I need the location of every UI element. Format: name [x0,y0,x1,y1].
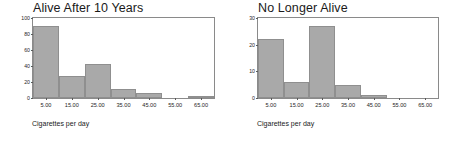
y-axis-tick-label: 10 [249,68,255,74]
y-axis-tick-mark [31,34,33,35]
plot-area: 020406080100 5.0015.0025.0035.0045.0055.… [32,17,215,99]
x-axis-label: Cigarettes per day [32,120,89,127]
histogram-bar [335,85,361,98]
y-axis-tick-label: 20 [249,42,255,48]
y-axis-tick-label: 20 [24,79,30,85]
x-axis-tick-label: 55.00 [392,102,406,108]
x-axis-tick-label: 5.00 [40,102,51,108]
histogram-bar [309,26,335,98]
y-axis-tick-label: 0 [252,95,255,101]
x-axis-tick-mark [322,98,323,100]
x-axis-tick-label: 25.00 [315,102,329,108]
x-axis-tick-mark [149,98,150,100]
chart-title: No Longer Alive [258,1,348,15]
x-axis-tick-label: 55.00 [168,102,182,108]
chart-title: Alive After 10 Years [33,1,143,15]
x-axis-tick-mark [98,98,99,100]
x-axis-tick-mark [297,98,298,100]
y-axis-tick-label: 60 [24,47,30,53]
histogram-bar [85,64,111,98]
x-axis-tick-mark [72,98,73,100]
chart-panel-alive-after-10-years: Alive After 10 Years 020406080100 5.0015… [0,0,226,144]
y-axis-tick-mark [256,18,258,19]
y-axis-tick-mark [31,18,33,19]
x-axis-tick-mark [175,98,176,100]
plot-area: 0102030 5.0015.0025.0035.0045.0055.0065.… [257,17,439,99]
x-axis-tick-label: 65.00 [194,102,208,108]
x-axis-tick-label: 45.00 [367,102,381,108]
histogram-bar [111,89,137,98]
x-axis-tick-mark [374,98,375,100]
histogram-bar [33,26,59,98]
histogram-bar [258,39,284,98]
x-axis-tick-mark [271,98,272,100]
x-axis-tick-label: 35.00 [117,102,131,108]
y-axis-tick-mark [256,71,258,72]
y-axis-tick-mark [31,82,33,83]
x-axis-tick-label: 25.00 [91,102,105,108]
chart-panel-no-longer-alive: No Longer Alive 0102030 5.0015.0025.0035… [225,0,451,144]
histogram-bar [59,76,85,98]
x-axis-tick-label: 65.00 [418,102,432,108]
y-axis-tick-label: 40 [24,63,30,69]
y-axis-tick-label: 100 [21,15,30,21]
y-axis-tick-mark [256,45,258,46]
y-axis-tick-label: 30 [249,15,255,21]
histogram-figure: Alive After 10 Years 020406080100 5.0015… [0,0,451,144]
x-axis-tick-mark [124,98,125,100]
x-axis-tick-mark [201,98,202,100]
x-axis-tick-mark [399,98,400,100]
x-axis-tick-label: 5.00 [265,102,276,108]
y-axis-tick-mark [31,98,33,99]
y-axis-tick-mark [31,66,33,67]
x-axis-tick-label: 45.00 [142,102,156,108]
y-axis-tick-label: 0 [27,95,30,101]
x-axis-tick-label: 15.00 [290,102,304,108]
bar-series [258,18,438,98]
x-axis-tick-mark [425,98,426,100]
histogram-bar [284,82,310,98]
x-axis-tick-mark [348,98,349,100]
y-axis-tick-label: 80 [24,31,30,37]
y-axis-tick-mark [256,98,258,99]
x-axis-tick-mark [46,98,47,100]
y-axis-tick-mark [31,50,33,51]
bar-series [33,18,214,98]
x-axis-tick-label: 15.00 [65,102,79,108]
x-axis-tick-label: 35.00 [341,102,355,108]
x-axis-label: Cigarettes per day [257,120,314,127]
